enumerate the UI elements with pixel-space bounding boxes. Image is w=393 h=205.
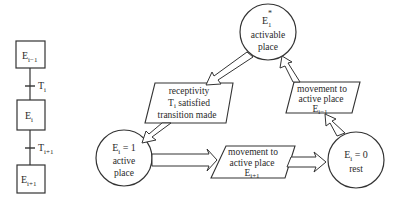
active-line2: place — [114, 168, 134, 178]
step-label-prev: Ei−1 — [22, 50, 38, 64]
arrow-movement-to-activable — [280, 56, 300, 82]
movement-prev-line2: active place — [298, 94, 343, 104]
movement-next-line1: movement to — [228, 147, 278, 157]
active-line1: active — [113, 156, 136, 166]
receptivity-line1: receptivity — [169, 86, 210, 96]
rest-line1: rest — [349, 164, 363, 174]
step-label-next: Ei+1 — [21, 174, 37, 188]
step-label-current: Ei — [25, 110, 33, 124]
arrow-movement-to-rest — [287, 152, 326, 172]
activable-star: * — [268, 9, 272, 18]
movement-prev-line1: movement to — [297, 84, 347, 94]
activable-line2: place — [258, 42, 278, 52]
arrow-activable-to-receptivity — [206, 52, 253, 85]
receptivity-line3: transition made — [158, 110, 217, 120]
arrow-receptivity-to-active — [142, 123, 171, 143]
transition-label-1: Ti — [38, 80, 46, 94]
movement-next-line2: active place — [229, 158, 274, 168]
rest-circle — [328, 132, 384, 188]
active-place-node: Ei = 1 active place — [112, 142, 136, 178]
transition-label-2: Ti+1 — [38, 142, 54, 156]
activable-line1: activable — [251, 30, 285, 40]
arrow-rest-to-movement — [325, 114, 345, 136]
grafcet-diagram: Ei−1 Ei Ei+1 Ti Ti+1 E1 * activable plac… — [0, 0, 393, 205]
arrow-active-to-movement — [152, 149, 217, 171]
